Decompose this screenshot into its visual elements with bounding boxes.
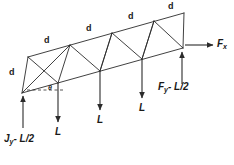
member-label-d-4: d xyxy=(168,2,174,11)
diagonal-3 xyxy=(100,33,112,71)
right-end-post xyxy=(183,13,184,48)
horizontal-force-label: Fx xyxy=(217,39,227,50)
truss-vector-graphic xyxy=(0,0,234,165)
diagonal-6 xyxy=(154,21,183,48)
angle-label-theta: θ xyxy=(48,84,52,91)
left-reaction-label: Jy- L/2 xyxy=(4,134,34,145)
load-arrows xyxy=(58,59,142,122)
diagonal-2 xyxy=(70,45,100,71)
truss-diagram-canvas: d d d d d θ L L L Jy- L/2 Fy- L/2 Fx xyxy=(0,0,234,165)
left-reaction-suffix: - L/2 xyxy=(13,133,34,144)
load-label-1: L xyxy=(55,127,61,137)
member-label-d-3: d xyxy=(128,12,134,21)
member-label-d-end-post: d xyxy=(9,68,15,77)
top-chord xyxy=(28,13,184,57)
diagonal-4 xyxy=(112,33,142,59)
member-label-d-1: d xyxy=(44,36,50,45)
member-label-d-2: d xyxy=(86,24,92,33)
right-reaction-suffix: - L/2 xyxy=(168,81,189,92)
right-reaction-label: Fy- L/2 xyxy=(158,82,189,93)
diagonal-5 xyxy=(142,21,154,59)
horizontal-force-subscript: x xyxy=(223,43,227,50)
load-label-3: L xyxy=(139,103,145,113)
load-label-2: L xyxy=(97,115,103,125)
